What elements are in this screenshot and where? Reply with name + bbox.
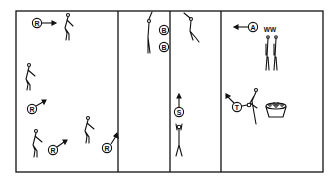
station-diagram: R R R R B B S A (0, 0, 336, 179)
svg-text:B: B (161, 27, 166, 34)
svg-text:R: R (50, 147, 55, 154)
station-marker-r4: R (102, 133, 118, 153)
stick-figure-icon (250, 89, 258, 125)
station-marker-r1: R (32, 18, 56, 27)
station-marker-b2: B (159, 42, 168, 51)
svg-text:A: A (250, 24, 255, 31)
station-marker-r3: R (48, 140, 67, 155)
stick-figure-icon (184, 13, 199, 42)
station-marker-r2: R (27, 100, 46, 114)
ball-basket-icon (266, 103, 286, 117)
stick-figure-icon (85, 117, 94, 144)
stick-figure-icon (33, 130, 42, 158)
svg-text:B: B (161, 44, 166, 51)
svg-text:S: S (177, 109, 182, 116)
station-marker-b1: B (159, 25, 168, 34)
stick-figure-icon (148, 12, 153, 53)
svg-text:R: R (34, 20, 39, 27)
stick-figure-icon (65, 14, 73, 41)
stick-figure-icon (176, 124, 182, 156)
stick-figure-icon (266, 36, 269, 70)
svg-text:R: R (29, 106, 34, 113)
svg-text:R: R (104, 145, 109, 152)
svg-text:T: T (235, 104, 240, 111)
station-marker-s: S (174, 94, 183, 117)
station-marker-t: T (226, 94, 251, 112)
stick-figure-icon (274, 36, 277, 70)
station-marker-a: A (234, 22, 258, 31)
ww-annotation: WW (264, 26, 277, 33)
stick-figure-icon (26, 64, 35, 91)
